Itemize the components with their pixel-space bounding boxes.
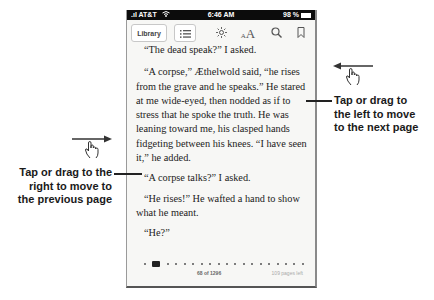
scrubber-dot: [277, 263, 279, 265]
status-bar: .ıl AT&T 6:46 AM 98 %: [127, 10, 315, 20]
scrubber-dot: [192, 263, 194, 265]
next-page-callout: Tap or drag to the left to move to the n…: [334, 94, 418, 135]
scrubber-dot: [243, 263, 245, 265]
paragraph: “The dead speak?” I asked.: [136, 43, 312, 57]
list-icon: [180, 24, 191, 42]
page-footer: 68 of 1296 109 pages left: [127, 260, 315, 280]
scrubber-dot: [184, 263, 186, 265]
search-icon: [271, 24, 282, 42]
table-of-contents-button[interactable]: [174, 24, 196, 42]
scrubber-dot: [218, 263, 220, 265]
scrubber-dot: [234, 263, 236, 265]
battery-icon: [301, 13, 311, 18]
paragraph: “A corpse talks?” I asked.: [136, 171, 312, 185]
brightness-button[interactable]: [214, 24, 228, 42]
scrubber-dot: [144, 263, 146, 265]
library-button[interactable]: Library: [131, 24, 167, 42]
scrubber-dot: [268, 263, 270, 265]
brightness-icon: [216, 24, 227, 42]
scrubber-dot: [302, 263, 304, 265]
scrubber-dot: [251, 263, 253, 265]
scrubber-dot: [167, 263, 169, 265]
previous-page-callout: Tap or drag to the right to move to the …: [12, 166, 112, 207]
paragraph: “A corpse,” Æthelwold said, “he rises fr…: [136, 65, 312, 165]
bookmark-icon: [297, 24, 305, 42]
font-size-button[interactable]: AA: [238, 24, 258, 42]
book-page-text[interactable]: “The dead speak?” I asked. “A corpse,” Æ…: [136, 43, 312, 247]
scrubber-dot: [285, 263, 287, 265]
ibooks-reader-screen: .ıl AT&T 6:46 AM 98 % Library AA: [126, 10, 317, 288]
scrubber-thumb[interactable]: [152, 261, 160, 267]
scrubber-dot: [175, 263, 177, 265]
scrubber-dot: [260, 263, 262, 265]
battery-status: 98 %: [283, 10, 311, 20]
paragraph: “He rises!” He wafted a hand to show wha…: [136, 192, 312, 221]
pages-left: 109 pages left: [272, 270, 303, 276]
scrubber-dot: [209, 263, 211, 265]
callout-line: [114, 173, 142, 175]
font-size-icon: AA: [241, 24, 255, 42]
scrubber-dot: [293, 263, 295, 265]
page-scrubber[interactable]: [144, 260, 304, 268]
callout-line: [306, 100, 332, 102]
scrubber-dot: [226, 263, 228, 265]
paragraph: “He?”: [136, 226, 312, 240]
scrubber-dot: [201, 263, 203, 265]
tap-hand-icon: [84, 139, 102, 163]
page-number: 68 of 1296: [197, 270, 221, 276]
search-button[interactable]: [269, 24, 283, 42]
bookmark-button[interactable]: [295, 24, 307, 42]
tap-hand-icon: [345, 66, 363, 90]
